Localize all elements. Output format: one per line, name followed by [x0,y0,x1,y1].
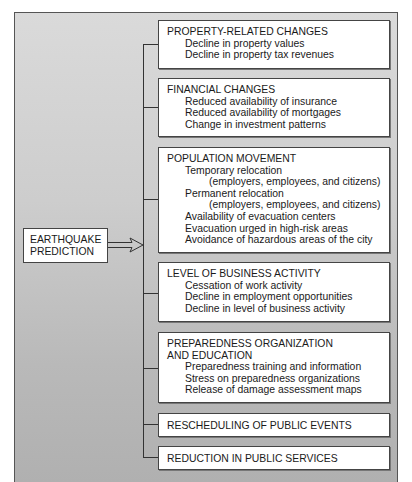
effect-box-public-events: RESCHEDULING OF PUBLIC EVENTS [158,413,390,437]
effect-item: Decline in property tax revenues [167,49,389,61]
effect-box-property: PROPERTY-RELATED CHANGES Decline in prop… [158,20,390,69]
effect-item: Stress on preparedness organizations [167,373,389,385]
effect-heading: LEVEL OF BUSINESS ACTIVITY [167,268,389,280]
hollow-arrow-icon [107,236,145,254]
effect-item: Decline in employment opportunities [167,291,389,303]
effect-box-public-services: REDUCTION IN PUBLIC SERVICES [158,446,390,470]
effect-heading: POPULATION MOVEMENT [167,153,389,165]
connector-stub [143,368,158,369]
effect-heading: PROPERTY-RELATED CHANGES [167,26,389,38]
effect-item: Decline in level of business activity [167,303,389,315]
effect-heading: FINANCIAL CHANGES [167,84,389,96]
effect-box-business: LEVEL OF BUSINESS ACTIVITY Cessation of … [158,262,390,322]
connector-stub [143,424,158,425]
effect-heading: RESCHEDULING OF PUBLIC EVENTS [167,420,389,432]
connector-stub [143,199,158,200]
effect-box-preparedness: PREPAREDNESS ORGANIZATION AND EDUCATION … [158,332,390,403]
source-label-line-1: EARTHQUAKE [30,234,107,246]
effect-item: Temporary relocation [167,165,389,177]
effect-subitem: (employers, employees, and citizens) [167,176,389,188]
effect-item: Change in investment patterns [167,119,389,131]
effect-box-financial: FINANCIAL CHANGES Reduced availability o… [158,78,390,137]
effect-item: Reduced availability of mortgages [167,107,389,119]
effect-item: Cessation of work activity [167,280,389,292]
effect-item: Availability of evacuation centers [167,211,389,223]
effect-item: Avoidance of hazardous areas of the city [167,234,389,246]
effect-heading: PREPAREDNESS ORGANIZATION [167,338,389,350]
effect-item: Release of damage assessment maps [167,384,389,396]
effect-item: Permanent relocation [167,188,389,200]
connector-stub [143,107,158,108]
effect-heading: AND EDUCATION [167,350,389,362]
effect-box-population: POPULATION MOVEMENT Temporary relocation… [158,147,390,253]
earthquake-prediction-box: EARTHQUAKE PREDICTION [23,228,108,263]
effect-heading: REDUCTION IN PUBLIC SERVICES [167,453,389,465]
source-label-line-2: PREDICTION [30,246,107,258]
connector-stub [143,293,158,294]
connector-stub [143,457,158,458]
effect-item: Decline in property values [167,38,389,50]
effect-item: Preparedness training and information [167,361,389,373]
connector-stub [143,44,158,45]
effect-item: Reduced availability of insurance [167,96,389,108]
effect-item: Evacuation urged in high-risk areas [167,223,389,235]
effect-subitem: (employers, employees, and citizens) [167,199,389,211]
